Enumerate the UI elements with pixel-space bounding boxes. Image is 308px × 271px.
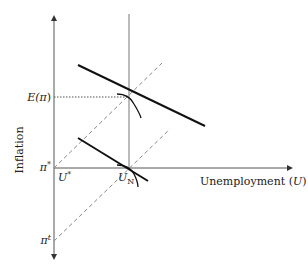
upper-short-run-curve — [78, 65, 205, 126]
lower-short-run-curve — [78, 138, 148, 181]
natural-unemployment-label: UN — [118, 171, 134, 186]
pi-star-label: π* — [39, 160, 51, 174]
pi-target-label: πt — [40, 233, 52, 247]
phillips-curve-diagram: Inflation Unemployment (U) E(π) π* U* UN… — [0, 0, 308, 271]
u-star-label: U* — [58, 170, 71, 184]
lower-dashed-diagonal — [54, 129, 170, 241]
y-axis-label: Inflation — [13, 127, 26, 174]
x-axis-label: Unemployment (U) — [200, 175, 307, 188]
expected-inflation-label: E(π) — [26, 91, 51, 104]
